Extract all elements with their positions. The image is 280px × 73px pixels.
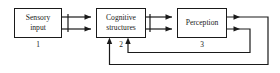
- node-sensory-input-label-line1: Sensory: [26, 13, 51, 22]
- node-sensory-input-index: 1: [36, 40, 40, 49]
- flow-diagram-canvas: Sensory input 1 Cognitive structures 2 P…: [0, 0, 280, 73]
- connector-sensory-to-cognitive-upper: [62, 14, 92, 19]
- node-cognitive-structures-label-line2: structures: [106, 23, 136, 32]
- node-cognitive-structures-index: 2: [119, 40, 123, 49]
- node-cognitive-structures-label-line1: Cognitive: [106, 13, 137, 22]
- node-perception-label-line1: Perception: [186, 18, 219, 27]
- flow-diagram: Sensory input 1 Cognitive structures 2 P…: [0, 0, 280, 73]
- node-perception-index: 3: [200, 40, 204, 49]
- connector-sensory-to-cognitive-lower: [62, 26, 92, 31]
- node-sensory-input-label-line2: input: [30, 23, 47, 32]
